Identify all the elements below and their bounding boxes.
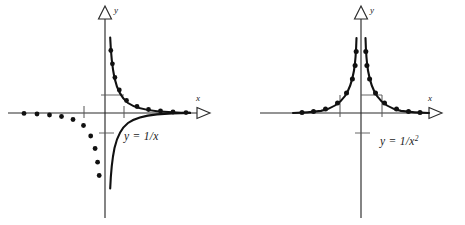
data-point (311, 109, 316, 114)
data-point (353, 63, 358, 68)
data-point (350, 77, 355, 82)
data-point (363, 49, 368, 54)
y-axis-arrowhead-right (355, 6, 368, 19)
data-point (124, 98, 129, 103)
data-point (354, 49, 359, 54)
data-point (394, 107, 399, 112)
data-point (59, 114, 64, 119)
x-axis-label-left: x (195, 93, 200, 103)
data-point (373, 91, 378, 96)
data-point (135, 104, 140, 109)
data-point (108, 48, 113, 53)
plot-panel-y-equals-1-over-x: y x (0, 0, 232, 225)
equation-base-left: y = 1/x (123, 130, 159, 143)
plot-svg-left: y x (0, 0, 232, 225)
data-point (344, 91, 349, 96)
equation-label-left: y = 1/x (123, 130, 159, 143)
data-dots-positive-left (108, 48, 188, 115)
data-point (117, 88, 122, 93)
data-point (367, 77, 372, 82)
curve-positive-branch-left (110, 38, 190, 113)
data-point (93, 146, 98, 151)
equation-label-right: y = 1/x2 (379, 134, 419, 148)
data-point (418, 110, 423, 115)
x-axis-arrowhead-right (429, 108, 442, 119)
data-point (146, 107, 151, 112)
data-point (22, 111, 27, 116)
data-point (81, 123, 86, 128)
data-point (158, 109, 163, 114)
data-dots-negative-left (22, 111, 102, 178)
equation-exponent-right: 2 (415, 134, 419, 143)
data-point (300, 110, 305, 115)
y-axis-label-left: y (113, 5, 118, 15)
plot-panel-y-equals-1-over-x-squared: y x (232, 0, 465, 225)
y-axis-label-right: y (369, 5, 374, 15)
data-point (88, 134, 93, 139)
data-point (335, 101, 340, 106)
curve-positive-branch-right (366, 38, 430, 113)
data-dots-negative-right (300, 49, 359, 115)
data-point (406, 109, 411, 114)
x-axis-label-right: x (427, 93, 432, 103)
data-point (95, 160, 100, 165)
curve-negative-branch-right (293, 38, 357, 113)
data-point (171, 110, 176, 115)
data-point (113, 75, 118, 80)
data-point (382, 101, 387, 106)
data-point (323, 107, 328, 112)
x-axis-arrowhead-left (197, 108, 210, 119)
data-point (71, 117, 76, 122)
curve-negative-branch-left (110, 113, 190, 189)
equation-base-right: y = 1/x (379, 135, 415, 148)
y-axis-arrowhead-left (99, 6, 112, 19)
data-point (97, 173, 102, 178)
plot-svg-right: y x (232, 0, 465, 225)
data-point (110, 61, 115, 66)
data-point (35, 112, 40, 117)
data-point (184, 110, 189, 115)
data-dots-positive-right (363, 49, 422, 115)
data-point (364, 63, 369, 68)
data-point (47, 113, 52, 118)
figure-container: y x (0, 0, 465, 225)
